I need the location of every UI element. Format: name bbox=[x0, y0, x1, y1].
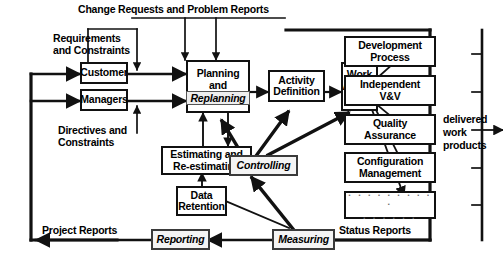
label-directives-and-constraints: Directives and Constraints bbox=[58, 124, 127, 148]
other-processes-dots-line2: . . . . . . bbox=[348, 212, 432, 221]
node-independent-vv-label: Independent V&V bbox=[360, 79, 420, 102]
node-data-retention[interactable]: Data Retention bbox=[176, 186, 227, 216]
node-activity-definition[interactable]: Activity Definition bbox=[268, 70, 325, 102]
label-change-requests: Change Requests and Problem Reports bbox=[78, 3, 269, 15]
node-quality-assurance-label: Quality Assurance bbox=[364, 118, 416, 141]
node-controlling-label: Controlling bbox=[237, 160, 291, 172]
node-planning-line2: and bbox=[209, 80, 227, 92]
label-requirements-and-constraints: Requirements and Constraints bbox=[53, 32, 130, 56]
node-configuration-management[interactable]: Configuration Management bbox=[344, 152, 436, 183]
node-controlling[interactable]: Controlling bbox=[229, 155, 298, 176]
node-planning-line3: Replanning bbox=[186, 91, 249, 105]
label-delivered-work-products: delivered work products bbox=[443, 113, 487, 152]
node-reporting[interactable]: Reporting bbox=[151, 229, 210, 250]
other-processes-dots-line1: . . . . . . . . . . bbox=[348, 189, 432, 207]
node-data-retention-label: Data Retention bbox=[178, 190, 225, 213]
process-diagram: Customer Managers Planning and Replannin… bbox=[0, 0, 503, 264]
node-activity-definition-label: Activity Definition bbox=[273, 75, 319, 98]
node-configuration-management-label: Configuration Management bbox=[357, 156, 423, 179]
node-customer-label: Customer bbox=[80, 67, 127, 79]
label-project-reports: Project Reports bbox=[42, 224, 117, 236]
node-measuring[interactable]: Measuring bbox=[272, 229, 335, 250]
node-planning-line1: Planning bbox=[197, 68, 240, 80]
node-measuring-label: Measuring bbox=[278, 234, 329, 246]
other-processes-dots: . . . . . . . . . . . . . . . . bbox=[348, 189, 432, 221]
node-managers[interactable]: Managers bbox=[80, 89, 128, 111]
node-managers-label: Managers bbox=[80, 94, 127, 106]
node-other-processes[interactable]: . . . . . . . . . . . . . . . . bbox=[344, 191, 436, 219]
node-development-process-label: Development Process bbox=[358, 40, 422, 63]
node-customer[interactable]: Customer bbox=[80, 62, 128, 84]
label-status-reports: Status Reports bbox=[339, 224, 411, 236]
node-planning-and-replanning[interactable]: Planning and Replanning bbox=[186, 60, 250, 113]
node-quality-assurance[interactable]: Quality Assurance bbox=[344, 114, 436, 145]
node-independent-vv[interactable]: Independent V&V bbox=[344, 75, 436, 106]
node-development-process[interactable]: Development Process bbox=[344, 36, 436, 67]
node-reporting-label: Reporting bbox=[157, 234, 205, 246]
